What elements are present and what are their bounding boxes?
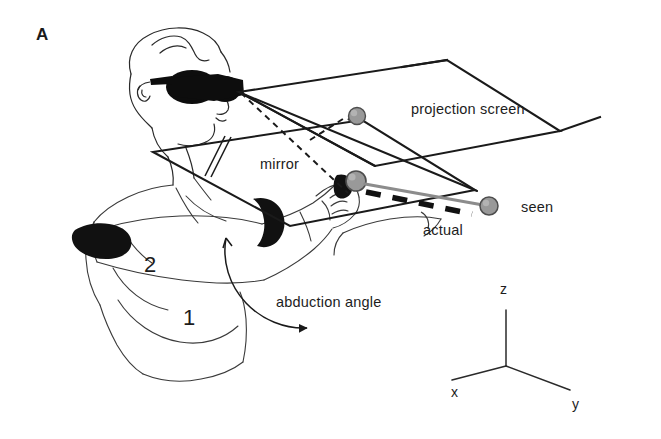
axis-label-x: x (451, 384, 458, 400)
mirror-plane (153, 120, 475, 226)
panel-label-a: A (36, 25, 49, 45)
mirror-label: mirror (260, 156, 299, 172)
axis-label-y: y (572, 396, 579, 412)
segment-label-forearm: 1 (183, 305, 195, 331)
coordinate-axes (452, 310, 570, 390)
actual-trajectory-dashed (366, 192, 472, 214)
screen-target-sphere (349, 108, 366, 125)
figure-panel-a: A projection screen mirror seen actual a… (0, 0, 661, 439)
diagram-canvas (0, 0, 661, 439)
hand-target-sphere (346, 171, 366, 191)
head-profile (129, 28, 230, 185)
segment-label-upper-arm: 2 (144, 252, 156, 278)
seen-label: seen (521, 199, 553, 215)
seen-target-sphere (480, 197, 498, 215)
abduction-angle-label: abduction angle (276, 294, 381, 310)
goggles-strap (138, 82, 150, 90)
shoulder-marker-band (72, 223, 132, 259)
actual-label: actual (423, 222, 463, 238)
torso-outline (86, 178, 247, 381)
axis-label-z: z (500, 281, 507, 297)
goggles-icon (150, 70, 244, 104)
projection-screen-edge-extensions (402, 60, 600, 131)
projection-screen-label: projection screen (411, 101, 525, 117)
